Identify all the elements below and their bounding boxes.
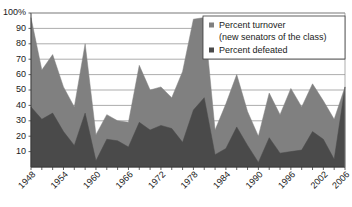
x-axis-tick-label: 1966 bbox=[114, 169, 135, 190]
y-axis-tick-label: 30 bbox=[16, 115, 26, 125]
x-axis-tick-label: 1960 bbox=[81, 169, 102, 190]
legend-label-turnover-line1: Percent turnover bbox=[219, 20, 286, 30]
y-axis-tick-label: 50 bbox=[16, 84, 26, 94]
x-axis-tick-label: 2006 bbox=[330, 169, 351, 190]
y-axis-tick-label: 40 bbox=[16, 100, 26, 110]
x-axis-tick-label: 2002 bbox=[309, 169, 330, 190]
y-axis-tick-label: 80 bbox=[16, 38, 26, 48]
y-axis-tick-label: 70 bbox=[16, 54, 26, 64]
legend-label-defeated: Percent defeated bbox=[219, 45, 288, 55]
x-axis-tick-label: 1954 bbox=[49, 169, 70, 190]
legend-label-turnover-line2: (new senators of the class) bbox=[219, 32, 327, 42]
x-axis-labels: 1948195419601966197219781984199019962002… bbox=[16, 169, 351, 190]
y-axis-tick-label: 10 bbox=[16, 146, 26, 156]
y-axis-tick-label: 60 bbox=[16, 69, 26, 79]
x-axis-tick-label: 1948 bbox=[16, 169, 37, 190]
legend-swatch-defeated bbox=[209, 48, 214, 53]
x-axis-tick-label: 1990 bbox=[244, 169, 265, 190]
area-chart: 100%908070605040302010 19481954196019661… bbox=[0, 0, 352, 207]
chart-canvas: 100%908070605040302010 19481954196019661… bbox=[0, 0, 352, 207]
x-axis-tick-label: 1984 bbox=[211, 169, 232, 190]
x-axis-tick-label: 1996 bbox=[276, 169, 297, 190]
y-axis-tick-label: 100% bbox=[3, 7, 26, 17]
x-axis-tick-label: 1972 bbox=[146, 169, 167, 190]
y-axis-tick-label: 90 bbox=[16, 23, 26, 33]
y-axis-tick-label: 20 bbox=[16, 131, 26, 141]
chart-legend: Percent turnover(new senators of the cla… bbox=[203, 16, 345, 59]
y-axis-labels: 100%908070605040302010 bbox=[3, 7, 31, 156]
x-axis-tick-label: 1978 bbox=[179, 169, 200, 190]
legend-swatch-turnover bbox=[209, 23, 214, 28]
